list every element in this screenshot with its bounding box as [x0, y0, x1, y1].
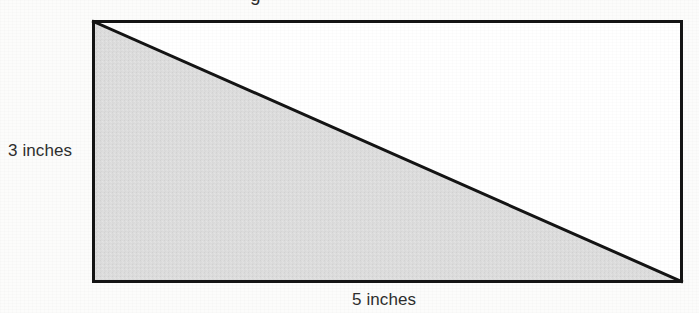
figure-page: g 3 inches 5 inches — [0, 0, 699, 313]
height-dimension-label: 3 inches — [8, 141, 72, 161]
width-dimension-label: 5 inches — [352, 290, 416, 310]
geometry-figure — [0, 0, 699, 313]
